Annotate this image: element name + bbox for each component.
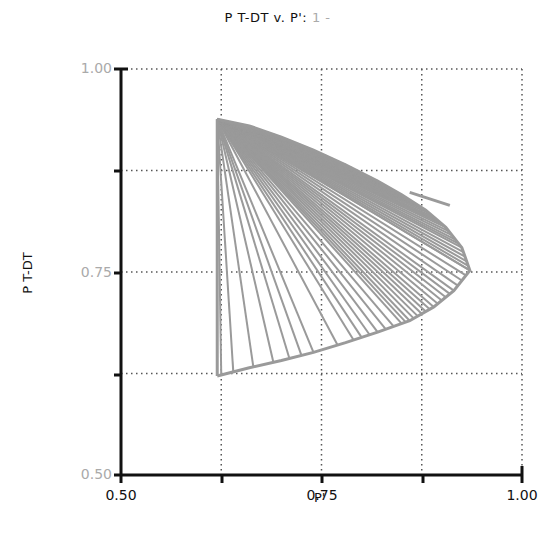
axes	[114, 69, 522, 483]
data-series	[217, 119, 470, 376]
plot-area	[0, 0, 555, 555]
